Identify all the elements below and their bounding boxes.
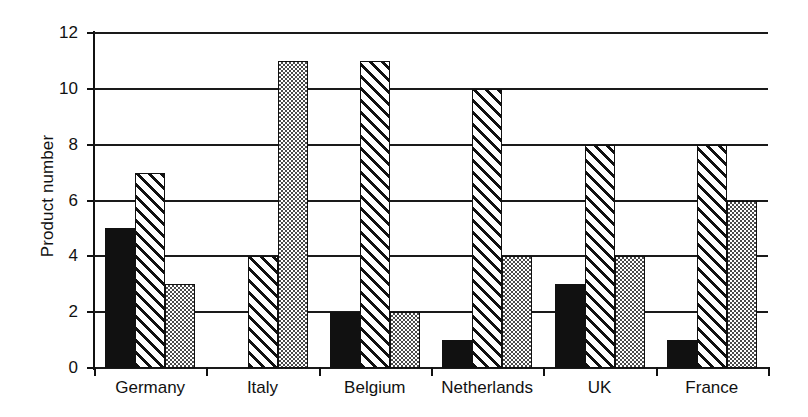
- bar: [165, 284, 195, 368]
- bar: [330, 312, 360, 368]
- bar: [667, 340, 697, 368]
- x-tick-label: Italy: [206, 378, 318, 398]
- x-tick-label: Germany: [94, 378, 206, 398]
- bar: [442, 340, 472, 368]
- bar: [278, 61, 308, 368]
- x-tick-mark: [431, 367, 433, 376]
- y-tick-label: 6: [48, 191, 78, 211]
- bar: [502, 256, 532, 368]
- x-tick-mark: [768, 367, 770, 376]
- x-tick-label: UK: [543, 378, 655, 398]
- plot-area: [94, 33, 768, 368]
- gridline: [94, 200, 768, 202]
- bar: [555, 284, 585, 368]
- x-tick-mark: [656, 367, 658, 376]
- x-tick-label: France: [656, 378, 768, 398]
- y-tick-label: 4: [48, 246, 78, 266]
- gridline: [94, 32, 768, 34]
- bar: [585, 145, 615, 368]
- bar: [248, 256, 278, 368]
- gridline: [94, 88, 768, 90]
- x-tick-label: Belgium: [319, 378, 431, 398]
- x-tick-mark: [94, 367, 96, 376]
- bar: [615, 256, 645, 368]
- bar: [360, 61, 390, 368]
- x-tick-mark: [543, 367, 545, 376]
- y-tick-label: 2: [48, 302, 78, 322]
- y-tick-label: 12: [48, 23, 78, 43]
- x-tick-label: Netherlands: [431, 378, 543, 398]
- y-tick-label: 8: [48, 135, 78, 155]
- bar: [697, 145, 727, 368]
- chart-figure: Product number 024681012 GermanyItalyBel…: [0, 0, 808, 417]
- y-tick-label: 0: [48, 358, 78, 378]
- x-tick-mark: [206, 367, 208, 376]
- bar: [135, 173, 165, 368]
- bar: [105, 228, 135, 368]
- x-tick-mark: [319, 367, 321, 376]
- bar: [727, 201, 757, 369]
- gridline: [94, 255, 768, 257]
- bar: [472, 89, 502, 368]
- y-tick-label: 10: [48, 79, 78, 99]
- gridline: [94, 144, 768, 146]
- bar: [390, 312, 420, 368]
